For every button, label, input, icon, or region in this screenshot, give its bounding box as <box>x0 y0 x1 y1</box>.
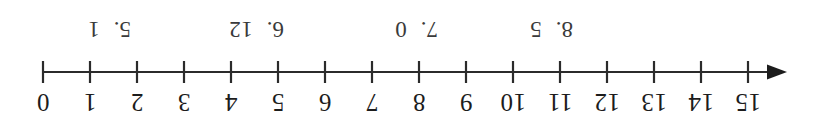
tick-label-7: 7 <box>366 90 379 115</box>
tick-label-2: 2 <box>131 90 144 115</box>
tick-label-15: 15 <box>735 90 761 115</box>
tick-label-1: 1 <box>84 90 97 115</box>
tick-label-4: 4 <box>225 90 238 115</box>
tick-label-5: 5 <box>272 90 285 115</box>
tick-label-9: 9 <box>460 90 473 115</box>
problem-item: 6.12 <box>229 18 284 41</box>
problem-number: 7. <box>421 17 438 42</box>
tick-label-6: 6 <box>319 90 332 115</box>
tick-label-13: 13 <box>641 90 667 115</box>
problem-answer: 1 <box>88 17 100 42</box>
tick-label-8: 8 <box>413 90 426 115</box>
worksheet-fragment: 0 1 2 3 4 5 6 7 8 9 10 11 12 13 14 15 5.… <box>0 0 821 125</box>
tick-label-0: 0 <box>37 90 50 115</box>
tick-label-3: 3 <box>178 90 191 115</box>
problem-answer: 12 <box>229 17 253 42</box>
problem-number: 5. <box>114 17 131 42</box>
problem-answer: 0 <box>395 17 407 42</box>
arrowhead-left-icon <box>767 65 787 80</box>
problem-number: 8. <box>556 17 573 42</box>
problem-answer: 5 <box>530 17 542 42</box>
tick-label-12: 12 <box>594 90 620 115</box>
problem-item: 8.5 <box>530 18 573 41</box>
tick-label-11: 11 <box>547 90 572 115</box>
tick-label-14: 14 <box>688 90 714 115</box>
problem-item: 7.0 <box>395 18 438 41</box>
problem-item: 5.1 <box>88 18 131 41</box>
tick-label-10: 10 <box>500 90 526 115</box>
problem-number: 6. <box>267 17 284 42</box>
